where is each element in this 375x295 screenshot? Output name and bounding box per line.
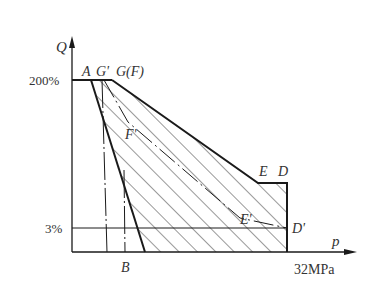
label-d-prime: D'	[291, 221, 306, 236]
label-f-prime: F'	[124, 127, 138, 142]
label-g-f: G(F)	[116, 64, 144, 80]
y-axis	[69, 36, 75, 252]
label-a: A	[81, 64, 91, 79]
label-e-prime: E'	[239, 212, 253, 227]
label-g-prime: G'	[96, 64, 110, 79]
y-axis-label: Q	[56, 39, 67, 55]
x-axis-label: p	[331, 233, 340, 249]
q-p-diagram: Q 200% 3% A G' G(F) F' E D E' D' B p 32M…	[0, 0, 375, 295]
tick-200: 200%	[29, 73, 60, 88]
x-max-label: 32MPa	[294, 262, 335, 277]
label-b: B	[121, 260, 130, 275]
label-e: E	[258, 164, 268, 179]
hatched-operating-region	[92, 80, 287, 252]
label-d: D	[277, 164, 288, 179]
tick-3: 3%	[45, 221, 63, 236]
